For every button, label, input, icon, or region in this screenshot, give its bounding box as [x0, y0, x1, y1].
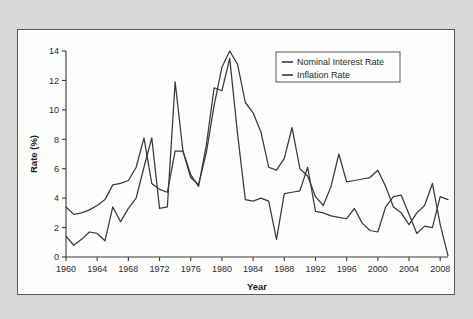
- line-chart: 0246810121419601964196819721976198019841…: [18, 30, 456, 296]
- x-tick-label: 1996: [337, 264, 357, 274]
- x-tick-label: 1984: [243, 264, 263, 274]
- x-tick-label: 1992: [305, 264, 325, 274]
- series-line-1: [66, 58, 448, 245]
- y-axis-title: Rate (%): [28, 135, 39, 173]
- x-tick-label: 1976: [181, 264, 201, 274]
- x-tick-label: 1968: [118, 264, 138, 274]
- y-tick-label: 4: [54, 193, 59, 203]
- x-tick-label: 2004: [399, 264, 419, 274]
- x-tick-label: 2000: [368, 264, 388, 274]
- x-tick-label: 1972: [150, 264, 170, 274]
- x-tick-label: 1988: [274, 264, 294, 274]
- x-tick-label: 2008: [430, 264, 450, 274]
- legend-label-0: Nominal Interest Rate: [297, 57, 384, 67]
- figure-root: 0246810121419601964196819721976198019841…: [0, 0, 473, 319]
- y-tick-label: 10: [49, 105, 59, 115]
- y-tick-label: 12: [49, 76, 59, 86]
- y-tick-label: 6: [54, 164, 59, 174]
- legend-label-1: Inflation Rate: [297, 70, 350, 80]
- x-tick-label: 1980: [212, 264, 232, 274]
- x-tick-label: 1960: [56, 264, 76, 274]
- x-axis-title: Year: [247, 281, 267, 292]
- y-tick-label: 2: [54, 223, 59, 233]
- y-tick-label: 14: [49, 46, 59, 56]
- chart-panel: 0246810121419601964196819721976198019841…: [17, 29, 455, 295]
- plot-area: 0246810121419601964196819721976198019841…: [18, 30, 456, 296]
- y-tick-label: 0: [54, 252, 59, 262]
- y-tick-label: 8: [54, 135, 59, 145]
- x-tick-label: 1964: [87, 264, 107, 274]
